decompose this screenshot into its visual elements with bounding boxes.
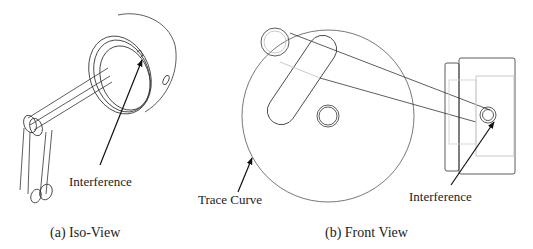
iso-view-caption: (a) Iso-View [50, 225, 120, 241]
iso-interference-arrow [100, 60, 142, 165]
front-interference-arrow [451, 122, 494, 185]
trace-curve-circle [242, 30, 414, 202]
figure-canvas [0, 0, 533, 249]
trace-curve-arrow [238, 158, 252, 192]
iso-interference-label: Interference [69, 174, 132, 190]
front-view-caption: (b) Front View [325, 225, 408, 241]
front-interference-label: Interference [409, 189, 472, 205]
front-view-drawing [242, 28, 515, 202]
trace-curve-label: Trace Curve [198, 192, 262, 208]
